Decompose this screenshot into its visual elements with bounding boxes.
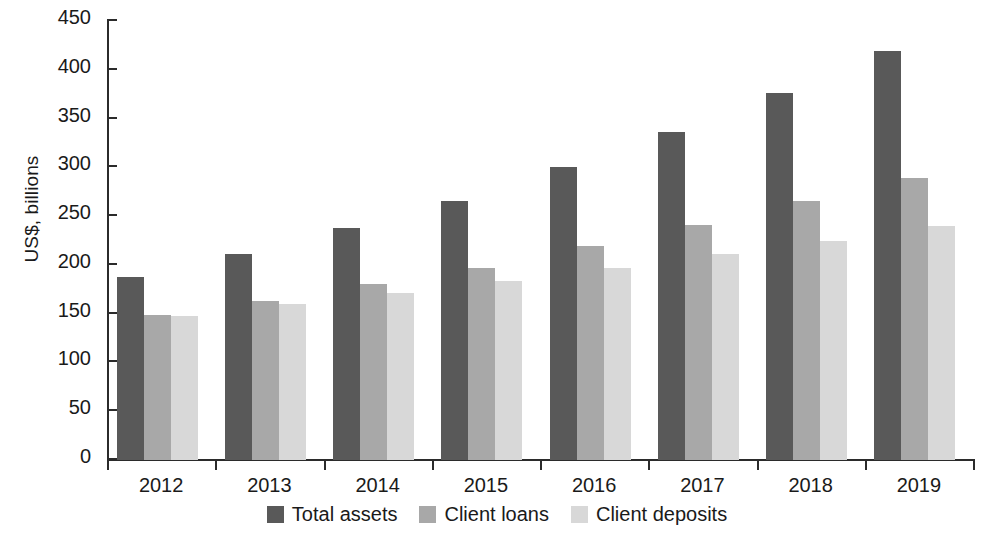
bars-layer [107,20,973,460]
x-axis-label: 2013 [215,474,323,497]
x-axis-label: 2019 [865,474,973,497]
x-tick-mark [865,459,867,470]
bar [766,93,793,460]
bar [685,225,712,460]
x-axis-label: 2015 [432,474,540,497]
legend-label: Client loans [444,503,549,526]
x-tick-mark [757,459,759,470]
x-tick-mark [973,459,975,470]
x-tick-mark [540,459,542,470]
bar [928,226,955,460]
y-tick-label: 50 [69,396,91,419]
legend-label: Client deposits [596,503,727,526]
x-tick-mark [648,459,650,470]
bar [225,254,252,460]
bar [333,228,360,460]
y-tick-label: 200 [58,250,91,273]
bar [387,293,414,460]
legend-swatch-icon [571,506,588,523]
x-tick-mark [432,459,434,470]
bar [117,277,144,460]
x-axis-label: 2017 [648,474,756,497]
bar [874,51,901,460]
bar [171,316,198,460]
bar [550,167,577,460]
bar [658,132,685,460]
bar [441,201,468,460]
y-tick-label: 400 [58,55,91,78]
legend-item[interactable]: Client loans [419,503,549,526]
bar [252,301,279,460]
y-tick-label: 450 [58,6,91,29]
bar [901,178,928,460]
x-tick-mark [215,459,217,470]
x-axis-label: 2016 [540,474,648,497]
bar [577,246,604,460]
y-tick-label: 350 [58,104,91,127]
bar [468,268,495,460]
x-axis-label: 2012 [107,474,215,497]
bar [604,268,631,460]
bar [820,241,847,461]
legend-swatch-icon [267,506,284,523]
chart-legend: Total assetsClient loansClient deposits [0,503,994,526]
legend-label: Total assets [292,503,398,526]
x-axis-label: 2018 [757,474,865,497]
bar [144,315,171,460]
y-tick-label: 250 [58,201,91,224]
legend-item[interactable]: Client deposits [571,503,727,526]
bar [279,304,306,460]
y-tick-label: 300 [58,152,91,175]
bar [495,281,522,461]
y-tick-label: 0 [80,445,91,468]
bar [793,201,820,460]
y-tick-label: 150 [58,299,91,322]
x-axis-label: 2014 [324,474,432,497]
legend-swatch-icon [419,506,436,523]
y-axis-title: US$, billions [21,99,43,319]
bar [712,254,739,460]
legend-item[interactable]: Total assets [267,503,398,526]
x-tick-mark [324,459,326,470]
bar-chart: US$, billions 05010015020025030035040045… [0,0,994,536]
y-tick-label: 100 [58,347,91,370]
x-tick-mark [107,459,109,470]
bar [360,284,387,460]
